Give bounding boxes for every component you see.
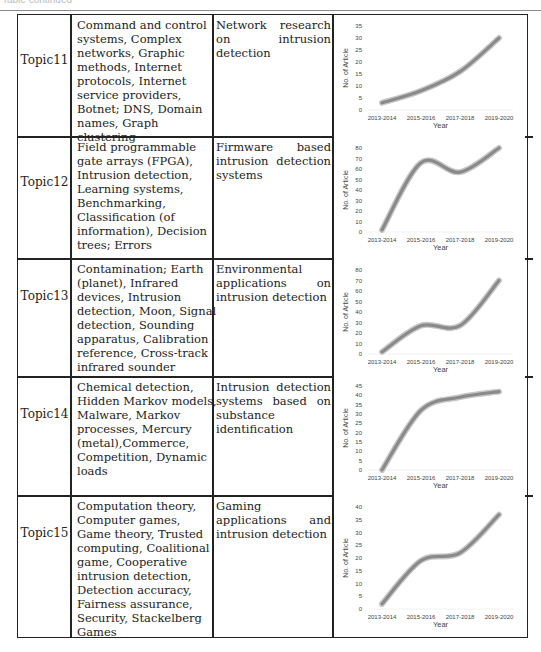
topic-application: Firmware based intrusion detection syste…	[216, 140, 331, 182]
header-faint-text: Table continued	[2, 0, 72, 5]
series-line	[382, 38, 499, 103]
x-axis-label: Year	[433, 243, 449, 252]
topic-application: Environmental applications on intrusion …	[216, 262, 331, 304]
y-tick-label: 35	[355, 23, 362, 29]
y-tick-label: 30	[355, 35, 362, 41]
topic-keywords: Computation theory, Computer games, Game…	[77, 499, 217, 639]
y-axis-label: No. of Article	[342, 408, 349, 448]
topic-label: Topic15	[18, 526, 71, 540]
line-chart-topic13: No. of Article010203040506070802013-2014…	[338, 262, 523, 380]
y-tick-label: 20	[355, 208, 362, 214]
x-tick-label: 2015-2016	[407, 475, 436, 481]
y-tick-label: 30	[355, 530, 362, 536]
y-tick-label: 60	[355, 166, 362, 172]
y-tick-label: 30	[355, 198, 362, 204]
y-tick-label: 20	[355, 59, 362, 65]
topic-label: Topic11	[18, 53, 71, 67]
y-tick-label: 10	[355, 341, 362, 347]
x-tick-label: 2017-2018	[446, 115, 475, 121]
y-tick-label: 70	[355, 156, 362, 162]
topic-keywords: Chemical detection, Hidden Markov models…	[77, 380, 217, 478]
x-tick-label: 2015-2016	[407, 115, 436, 121]
y-tick-label: 10	[355, 448, 362, 454]
y-tick-label: 25	[355, 542, 362, 548]
x-axis-label: Year	[433, 121, 449, 130]
line-chart-topic11: No. of Article051015202530352013-2014201…	[338, 18, 523, 136]
x-tick-label: 2013-2014	[368, 614, 397, 620]
line-chart-topic15: No. of Article05101520253035402013-20142…	[338, 499, 523, 635]
y-tick-label: 10	[355, 581, 362, 587]
y-tick-label: 35	[355, 402, 362, 408]
y-tick-label: 25	[355, 420, 362, 426]
x-tick-label: 2015-2016	[407, 359, 436, 365]
topic-label: Topic12	[18, 175, 71, 189]
y-tick-label: 25	[355, 47, 362, 53]
x-axis-label: Year	[433, 620, 449, 629]
y-tick-label: 35	[355, 517, 362, 523]
y-axis-label: No. of Article	[342, 48, 349, 88]
x-tick-label: 2013-2014	[368, 475, 397, 481]
y-tick-label: 50	[355, 177, 362, 183]
y-axis-label: No. of Article	[342, 292, 349, 332]
y-tick-label: 70	[355, 278, 362, 284]
x-tick-label: 2015-2016	[407, 614, 436, 620]
y-tick-label: 0	[359, 229, 363, 235]
series-line-shadow	[382, 281, 499, 352]
topic-label: Topic14	[18, 407, 71, 421]
y-axis-label: No. of Article	[342, 170, 349, 210]
topic-label: Topic13	[18, 289, 71, 303]
x-axis-label: Year	[433, 481, 449, 490]
y-tick-label: 80	[355, 267, 362, 273]
x-tick-label: 2019-2020	[485, 475, 514, 481]
y-tick-label: 80	[355, 145, 362, 151]
y-axis-label: No. of Article	[342, 538, 349, 578]
x-tick-label: 2013-2014	[368, 115, 397, 121]
y-tick-label: 5	[359, 95, 363, 101]
y-tick-label: 5	[359, 458, 363, 464]
topic-keywords: Field programmable gate arrays (FPGA), I…	[77, 140, 217, 252]
y-tick-label: 40	[355, 309, 362, 315]
y-tick-label: 15	[355, 71, 362, 77]
y-tick-label: 30	[355, 411, 362, 417]
x-tick-label: 2013-2014	[368, 237, 397, 243]
series-line-shadow	[382, 515, 499, 604]
x-tick-label: 2017-2018	[446, 237, 475, 243]
y-tick-label: 15	[355, 568, 362, 574]
x-axis-label: Year	[433, 365, 449, 374]
y-tick-label: 0	[359, 467, 363, 473]
y-tick-label: 50	[355, 299, 362, 305]
y-tick-label: 20	[355, 430, 362, 436]
y-tick-label: 20	[355, 555, 362, 561]
x-tick-label: 2015-2016	[407, 237, 436, 243]
y-tick-label: 60	[355, 288, 362, 294]
x-tick-label: 2013-2014	[368, 359, 397, 365]
x-tick-label: 2017-2018	[446, 359, 475, 365]
topics-table: Topic11 Command and control systems, Com…	[17, 14, 528, 638]
line-chart-topic14: No. of Article0510152025303540452013-201…	[338, 378, 523, 496]
y-tick-label: 10	[355, 219, 362, 225]
x-tick-label: 2017-2018	[446, 614, 475, 620]
x-tick-label: 2019-2020	[485, 237, 514, 243]
topic-application: Gaming applications and intrusion detect…	[216, 499, 331, 541]
topic-application: Network research on intrusion detection	[216, 18, 331, 60]
series-line-shadow	[382, 38, 499, 103]
x-tick-label: 2019-2020	[485, 614, 514, 620]
y-tick-label: 40	[355, 392, 362, 398]
topic-keywords: Contamination; Earth (planet), Infrared …	[77, 262, 217, 374]
y-tick-label: 0	[359, 107, 363, 113]
topic-application: Intrusion detection systems based on sub…	[216, 380, 331, 436]
y-tick-label: 0	[359, 606, 363, 612]
y-tick-label: 40	[355, 187, 362, 193]
y-tick-label: 10	[355, 83, 362, 89]
x-tick-label: 2019-2020	[485, 359, 514, 365]
line-chart-topic12: No. of Article010203040506070802013-2014…	[338, 140, 523, 258]
series-line-shadow	[382, 392, 499, 470]
y-tick-label: 0	[359, 351, 363, 357]
y-tick-label: 5	[359, 593, 363, 599]
x-tick-label: 2017-2018	[446, 475, 475, 481]
x-tick-label: 2019-2020	[485, 115, 514, 121]
y-tick-label: 40	[355, 504, 362, 510]
top-rule	[0, 10, 541, 11]
y-tick-label: 20	[355, 330, 362, 336]
y-tick-label: 30	[355, 320, 362, 326]
